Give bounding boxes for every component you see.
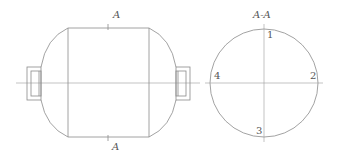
right-nozzle-inner xyxy=(176,71,186,96)
point-label-1: 1 xyxy=(267,29,273,40)
left-head-upper-arc xyxy=(41,28,68,67)
left-head-lower-arc xyxy=(41,100,68,137)
technical-drawing: A A A-A 1 2 3 4 xyxy=(0,0,339,158)
point-label-3: 3 xyxy=(256,125,262,136)
right-head-upper-arc xyxy=(149,28,176,67)
left-nozzle-inner xyxy=(31,71,41,96)
section-view-a-a: A-A 1 2 3 4 xyxy=(205,9,323,142)
point-label-4: 4 xyxy=(214,70,220,81)
right-head-lower-arc xyxy=(149,100,176,137)
section-title: A-A xyxy=(252,9,271,20)
section-mark-bottom: A xyxy=(111,141,119,152)
section-mark-top: A xyxy=(112,9,120,20)
vessel-front-view: A A xyxy=(16,9,200,152)
point-label-2: 2 xyxy=(310,70,316,81)
